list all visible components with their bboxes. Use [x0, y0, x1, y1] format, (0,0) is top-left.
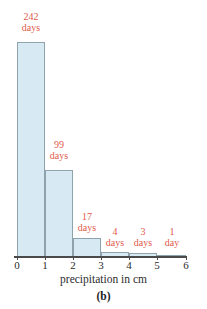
- x-axis-title: precipitation in cm: [0, 273, 207, 285]
- x-axis-tick-label: 5: [147, 259, 167, 272]
- bar-label-unit: day: [155, 237, 189, 248]
- figure-caption: (b): [0, 290, 207, 302]
- bar-label-bin-1-2: 99 days: [42, 139, 76, 161]
- bar-label-value: 99: [42, 139, 76, 150]
- x-axis-tick-label: 0: [7, 259, 27, 272]
- histogram-figure: 242 days 99 days 17 days 4 days 3 days 1…: [0, 0, 207, 309]
- x-axis-tick-label: 3: [91, 259, 111, 272]
- x-axis-line: [14, 256, 186, 258]
- bar-bin-1-2: [45, 170, 73, 257]
- bar-label-value: 1: [155, 226, 189, 237]
- bar-label-unit: days: [14, 22, 48, 33]
- bar-bin-0-1: [17, 42, 45, 257]
- bar-label-bin-5-6: 1 day: [155, 226, 189, 248]
- x-axis-tick-label: 6: [176, 259, 196, 272]
- x-axis-tick-label: 2: [63, 259, 83, 272]
- bar-label-bin-0-1: 242 days: [14, 11, 48, 33]
- bar-label-value: 242: [14, 11, 48, 22]
- x-axis-tick-label: 4: [119, 259, 139, 272]
- bar-label-unit: days: [42, 150, 76, 161]
- x-axis-tick-label: 1: [35, 259, 55, 272]
- bar-bin-2-3: [73, 238, 101, 257]
- plot-area: 242 days 99 days 17 days 4 days 3 days 1…: [0, 0, 207, 262]
- bar-label-value: 17: [70, 211, 104, 222]
